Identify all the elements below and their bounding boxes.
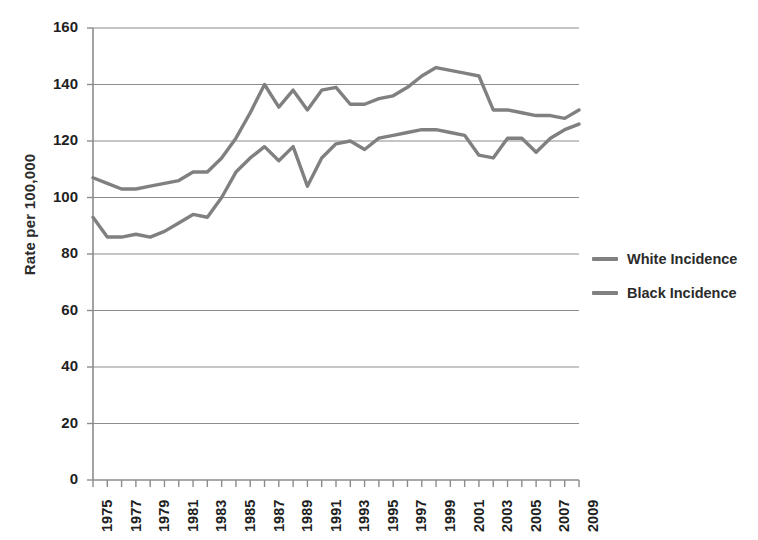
x-tick-label: 1997: [413, 500, 429, 532]
legend-label-black-incidence: Black Incidence: [627, 285, 737, 301]
y-tick-label: 100: [26, 188, 78, 205]
legend-label-white-incidence: White Incidence: [627, 251, 737, 267]
y-tick-label: 140: [26, 75, 78, 92]
chart-legend: White Incidence Black Incidence: [592, 242, 756, 310]
x-tick-label: 1987: [271, 500, 287, 532]
x-tick-label: 1985: [242, 500, 258, 532]
x-tick-label: 1999: [442, 500, 458, 532]
y-tick-label: 80: [26, 244, 78, 261]
y-tick-label: 120: [26, 131, 78, 148]
legend-swatch-white-incidence: [592, 257, 618, 261]
y-tick-label: 20: [26, 414, 78, 431]
x-tick-label: 2003: [499, 500, 515, 532]
y-tick-label: 60: [26, 301, 78, 318]
x-tick-label: 1983: [213, 500, 229, 532]
x-tick-label: 1977: [128, 500, 144, 532]
x-tick-label: 2007: [556, 500, 572, 532]
x-tick-label: 1995: [385, 500, 401, 532]
x-tick-label: 1991: [328, 500, 344, 532]
y-tick-label: 40: [26, 357, 78, 374]
legend-item-black-incidence: Black Incidence: [592, 276, 756, 310]
legend-swatch-black-incidence: [592, 291, 618, 295]
incidence-line-chart: Rate per 100,000 160140120100806040200 1…: [0, 0, 758, 540]
x-tick-label: 1975: [99, 500, 115, 532]
legend-item-white-incidence: White Incidence: [592, 242, 756, 276]
x-tick-label: 1993: [356, 500, 372, 532]
y-tick-label: 0: [26, 470, 78, 487]
series-line-white-incidence: [93, 68, 579, 189]
plot-canvas: [93, 28, 579, 480]
x-tick-label: 1979: [156, 500, 172, 532]
y-tick-label: 160: [26, 18, 78, 35]
x-tick-label: 1989: [299, 500, 315, 532]
x-tick-label: 2005: [528, 500, 544, 532]
y-axis-title: Rate per 100,000: [21, 120, 38, 310]
x-tick-label: 2009: [585, 500, 601, 532]
x-tick-label: 2001: [471, 500, 487, 532]
x-tick-label: 1981: [185, 500, 201, 532]
plot-area: [93, 28, 579, 480]
